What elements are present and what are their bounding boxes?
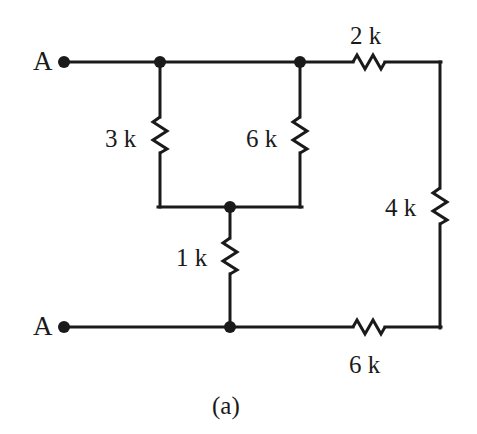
resistor-1k-symbol <box>223 238 237 274</box>
junction-dot-middle <box>224 201 236 213</box>
terminal-label-top: A <box>33 48 53 75</box>
junction-dot-top-mid <box>294 56 306 68</box>
resistor-6k-lower-symbol <box>353 320 385 334</box>
resistor-label-1k: 1 k <box>176 245 207 270</box>
terminal-dot-top <box>58 56 70 68</box>
figure-caption: (a) <box>212 393 240 418</box>
resistor-label-2k: 2 k <box>350 23 381 48</box>
junction-dot-bottom <box>224 321 236 333</box>
resistor-label-3k: 3 k <box>105 126 136 151</box>
terminal-dot-bottom <box>58 321 70 333</box>
resistor-2k-symbol <box>353 55 385 69</box>
resistor-label-4k: 4 k <box>385 195 416 220</box>
resistor-label-6k-lower: 6 k <box>349 352 380 377</box>
resistor-3k-symbol <box>153 117 167 153</box>
node-dot-group <box>58 56 306 333</box>
resistor-6k-upper-symbol <box>293 117 307 153</box>
resistor-4k-symbol <box>433 188 447 224</box>
resistor-label-6k-upper: 6 k <box>246 126 277 151</box>
junction-dot-top-left <box>154 56 166 68</box>
terminal-label-bottom: A <box>33 313 53 340</box>
figure-canvas: A A 3 k 6 k 1 k 2 k 4 k 6 k (a) <box>0 0 477 434</box>
